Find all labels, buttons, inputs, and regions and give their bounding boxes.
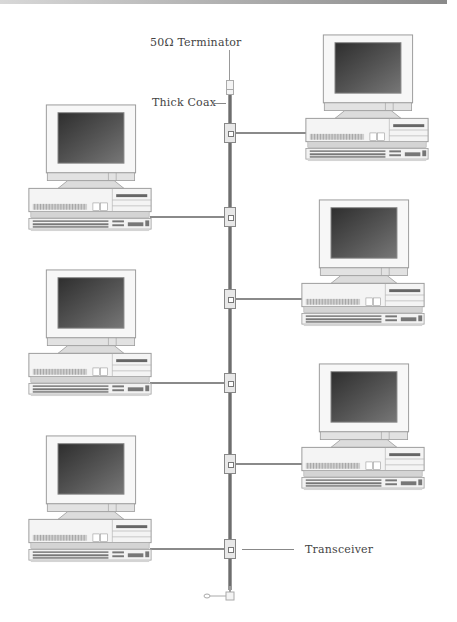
drop-cable-pc-2 bbox=[150, 216, 224, 218]
drop-cable-pc-4 bbox=[150, 382, 224, 384]
transceiver-icon bbox=[224, 207, 236, 227]
computer-icon-pc-4 bbox=[25, 268, 155, 398]
top-rule bbox=[0, 0, 447, 4]
computer-icon-pc-2 bbox=[25, 103, 155, 233]
thick-coax-cable bbox=[228, 95, 232, 590]
thick-coax-label: Thick Coax bbox=[152, 96, 216, 109]
transceiver-leader bbox=[242, 549, 294, 550]
terminator-leader bbox=[229, 50, 230, 82]
computer-icon-pc-6 bbox=[25, 434, 155, 564]
transceiver-icon bbox=[224, 539, 236, 559]
computer-icon-pc-5 bbox=[298, 362, 428, 492]
computer-icon-pc-3 bbox=[298, 198, 428, 328]
transceiver-label: Transceiver bbox=[305, 543, 373, 556]
transceiver-icon bbox=[224, 289, 236, 309]
drop-cable-pc-1 bbox=[236, 132, 306, 134]
transceiver-icon bbox=[224, 454, 236, 474]
transceiver-icon bbox=[224, 373, 236, 393]
terminator-label: 50Ω Terminator bbox=[150, 36, 242, 49]
thick-coax-leader bbox=[212, 103, 226, 104]
drop-cable-pc-5 bbox=[236, 463, 302, 465]
computer-icon-pc-1 bbox=[302, 33, 432, 163]
drop-cable-pc-3 bbox=[236, 298, 302, 300]
bottom-terminator-icon bbox=[200, 586, 240, 602]
transceiver-icon bbox=[224, 123, 236, 143]
drop-cable-pc-6 bbox=[150, 548, 224, 550]
